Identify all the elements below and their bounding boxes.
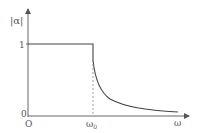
y-tick-label-zero: 0 — [21, 109, 27, 119]
y-tick-label-one: 1 — [19, 40, 25, 50]
y-axis-label: |α| — [10, 15, 24, 27]
x-axis-label: ω — [174, 118, 181, 128]
step-segment — [28, 44, 93, 60]
decay-curve — [93, 60, 178, 112]
origin-label: O — [25, 119, 32, 129]
chart: |α| 1 0 O ω0 ω — [0, 0, 200, 133]
omega0-label: ω0 — [86, 119, 97, 130]
